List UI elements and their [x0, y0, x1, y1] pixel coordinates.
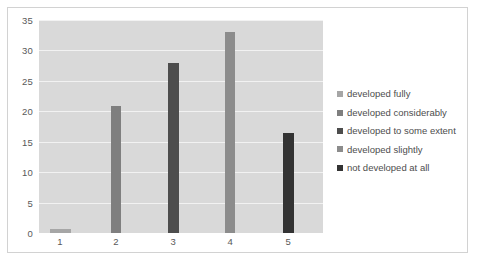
legend-item-label: developed slightly: [347, 145, 423, 155]
legend-swatch-icon: [337, 128, 343, 134]
legend-item-label: developed to some extent: [347, 126, 456, 136]
chart-legend: developed fullydeveloped considerablydev…: [337, 85, 465, 177]
bar-4[interactable]: [225, 32, 235, 233]
legend-swatch-icon: [337, 146, 343, 152]
legend-item-label: developed fully: [347, 89, 410, 99]
y-axis: 05101520253035: [8, 20, 37, 233]
legend-item[interactable]: developed slightly: [337, 140, 465, 158]
x-axis: 12345: [39, 236, 323, 252]
y-axis-tick-label: 0: [28, 228, 33, 239]
y-axis-tick-label: 30: [22, 45, 33, 56]
bar-3[interactable]: [168, 63, 179, 233]
legend-item[interactable]: developed fully: [337, 85, 465, 103]
legend-item[interactable]: developed considerably: [337, 103, 465, 121]
bars-layer: [39, 20, 323, 233]
legend-item-label: developed considerably: [347, 108, 447, 118]
legend-item[interactable]: developed to some extent: [337, 122, 465, 140]
y-axis-tick-label: 20: [22, 106, 33, 117]
plot-area: [39, 20, 323, 233]
x-axis-tick-label: 4: [227, 236, 232, 247]
y-axis-tick-label: 15: [22, 136, 33, 147]
legend-item-label: not developed at all: [347, 163, 429, 173]
bar-2[interactable]: [111, 106, 121, 233]
x-axis-tick-label: 2: [113, 236, 118, 247]
y-axis-tick-label: 10: [22, 167, 33, 178]
legend-item[interactable]: not developed at all: [337, 159, 465, 177]
legend-swatch-icon: [337, 165, 343, 171]
x-axis-tick-label: 5: [285, 236, 290, 247]
legend-swatch-icon: [337, 110, 343, 116]
x-axis-tick-label: 3: [170, 236, 175, 247]
bar-5[interactable]: [283, 133, 294, 233]
chart-frame: 05101520253035 12345 developed fullydeve…: [7, 7, 468, 253]
y-axis-tick-label: 5: [28, 197, 33, 208]
bar-1[interactable]: [50, 229, 71, 233]
x-axis-tick-label: 1: [57, 236, 62, 247]
y-axis-tick-label: 35: [22, 15, 33, 26]
legend-swatch-icon: [337, 91, 343, 97]
y-axis-tick-label: 25: [22, 75, 33, 86]
